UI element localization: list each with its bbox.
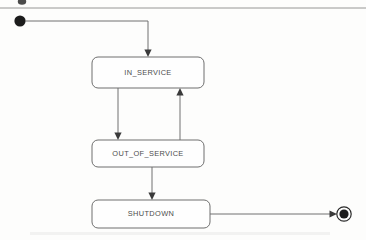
arrowhead-down-icon	[144, 50, 151, 58]
state-label-out-of-service: OUT_OF_SERVICE	[112, 149, 183, 158]
transitions-layer	[26, 21, 338, 218]
arrowhead-down-icon	[114, 133, 121, 141]
transition-out-of-service-to-in-service[interactable]	[176, 88, 183, 140]
state-label-shutdown: SHUTDOWN	[128, 209, 174, 218]
state-diagram-canvas: IN_SERVICE OUT_OF_SERVICE SHUTDOWN	[0, 0, 366, 240]
transition-initial-to-in-service[interactable]	[26, 21, 152, 57]
transition-shutdown-to-final[interactable]	[210, 210, 337, 217]
initial-state-node[interactable]	[14, 15, 25, 26]
edge-path	[26, 21, 149, 50]
final-state-node[interactable]	[337, 207, 351, 221]
final-state-core-icon	[339, 209, 348, 218]
transition-out-of-service-to-shutdown[interactable]	[148, 167, 155, 200]
clipped-top-marker	[18, 0, 26, 5]
arrowhead-up-icon	[176, 88, 183, 96]
scan-speckle	[30, 232, 330, 235]
arrowhead-right-icon	[330, 210, 338, 217]
transition-in-service-to-out-of-service[interactable]	[114, 88, 121, 140]
state-label-in-service: IN_SERVICE	[124, 68, 171, 77]
state-node-in-service[interactable]: IN_SERVICE	[92, 57, 204, 88]
state-node-out-of-service[interactable]: OUT_OF_SERVICE	[92, 140, 204, 167]
state-node-shutdown[interactable]: SHUTDOWN	[92, 200, 210, 228]
diagram-svg: IN_SERVICE OUT_OF_SERVICE SHUTDOWN	[0, 0, 366, 240]
initial-state-icon	[14, 15, 25, 26]
arrowhead-down-icon	[148, 193, 155, 201]
